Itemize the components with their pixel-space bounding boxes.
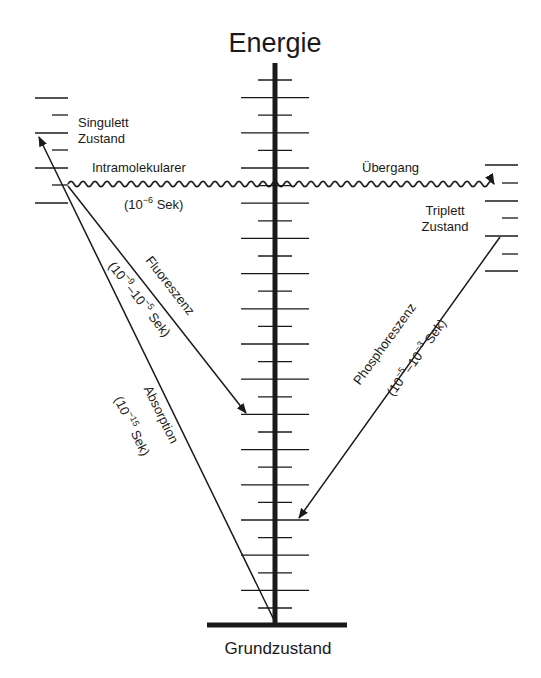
energy-axis-title: Energie — [228, 28, 321, 58]
triplet-label-2: Zustand — [422, 219, 469, 234]
svg-text:Absorption: Absorption — [141, 383, 182, 445]
singlet-label-2: Zustand — [78, 131, 125, 146]
intersystem-crossing-arrow — [68, 181, 494, 186]
triplet-label-1: Triplett — [425, 203, 465, 218]
svg-text:Phosphoreszenz: Phosphoreszenz — [350, 300, 419, 387]
ground-state-label: Grundzustand — [225, 639, 332, 658]
absorption-text: Absorption — [141, 383, 182, 445]
phosphorescence-text: Phosphoreszenz — [350, 300, 419, 387]
intersystem-label-left: Intramolekularer — [92, 160, 187, 175]
jablonski-diagram: Energie Grundzustand Singulett Zustand T… — [0, 0, 541, 678]
intersystem-time: (10−6 Sek) — [124, 195, 183, 212]
intersystem-label-right: Übergang — [362, 160, 419, 175]
singlet-label-1: Singulett — [78, 115, 129, 130]
